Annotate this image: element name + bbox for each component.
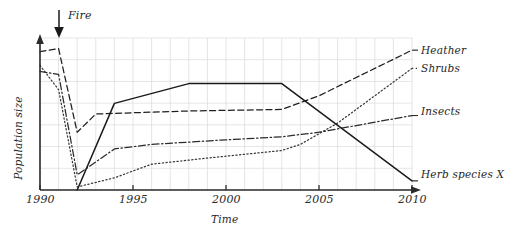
x-axis-label: Time xyxy=(211,213,238,225)
y-axis xyxy=(36,34,44,190)
fire-annotation-label: Fire xyxy=(68,9,92,22)
chart-canvas xyxy=(0,0,513,238)
series-label-heather: Heather xyxy=(421,44,466,56)
x-tick-label-2005: 2005 xyxy=(305,193,334,206)
x-tick-label-1990: 1990 xyxy=(26,193,55,206)
chart-figure: Population size 1990 1995 2000 2005 2010… xyxy=(0,0,513,238)
series-label-herb-species-x: Herb species X xyxy=(421,168,504,180)
chart-gridlines xyxy=(40,38,412,190)
y-axis-label: Population size xyxy=(12,83,24,193)
chart-series-group xyxy=(40,49,418,190)
fire-arrow-icon xyxy=(54,10,64,38)
x-tick-label-2000: 2000 xyxy=(212,193,241,206)
x-tick-label-2010: 2010 xyxy=(398,193,427,206)
series-label-shrubs: Shrubs xyxy=(421,62,460,74)
y-axis-label-wrap: Population size xyxy=(0,60,24,180)
series-label-insects: Insects xyxy=(421,105,460,117)
x-tick-label-1995: 1995 xyxy=(119,193,148,206)
